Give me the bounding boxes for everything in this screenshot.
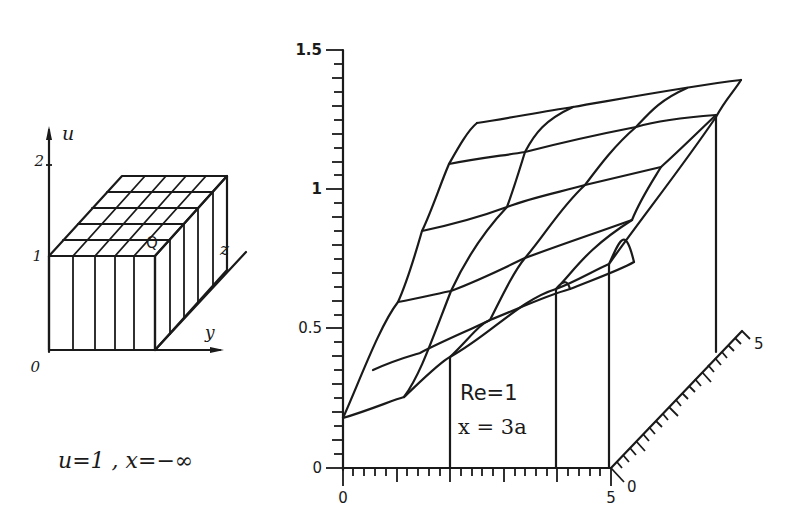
- u-tick-2: 2: [33, 152, 44, 170]
- y-axis-arrow-icon: [210, 347, 224, 353]
- z-axis-ticks: [611, 331, 750, 482]
- surface-mesh: [343, 80, 741, 418]
- z-axis: [155, 252, 246, 350]
- point-q-label: Q: [146, 234, 158, 252]
- box-front-face: [49, 256, 155, 350]
- velocity-surface-plot: 1.5 1 0.5 0 0 5: [295, 41, 763, 507]
- annotation-position: x = 3a: [458, 410, 527, 444]
- u-axis-label: u: [62, 122, 74, 144]
- y-tick-5: 5: [606, 489, 616, 507]
- annotation-reynolds: Re=1: [460, 376, 518, 410]
- u-tick-0: 0: [30, 358, 40, 376]
- u-tick-1: 1: [32, 247, 42, 265]
- left-caption: u=1 , x=−∞: [58, 448, 193, 473]
- z-axis-label: z: [219, 239, 230, 259]
- y-tick-0: 0: [338, 489, 348, 507]
- y-axis-ticks: [353, 468, 600, 482]
- u-axis-arrow-icon: [46, 126, 52, 140]
- box-top-face: [49, 176, 227, 256]
- box-side-face: [155, 176, 227, 350]
- z-tick-5: 5: [754, 335, 764, 353]
- u-tick-1-5: 1.5: [295, 41, 322, 59]
- u-tick-1: 1: [312, 180, 322, 198]
- u-axis-ticks: [326, 50, 343, 468]
- inlet-profile-box: 2 1 0 u y z Q: [30, 122, 246, 376]
- u-tick-0: 0: [312, 459, 322, 477]
- y-axis-label: y: [204, 322, 215, 342]
- z-tick-0: 0: [627, 478, 637, 496]
- u-tick-0-5: 0.5: [298, 319, 322, 337]
